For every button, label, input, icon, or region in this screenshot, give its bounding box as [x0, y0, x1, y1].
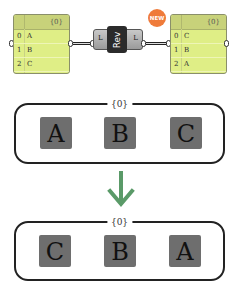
- after-item: C: [39, 235, 71, 267]
- arrow-down-icon: [107, 171, 135, 209]
- list-item: 0A: [14, 30, 69, 44]
- rev-output-label: L: [133, 34, 138, 42]
- list-item: 1B: [14, 44, 69, 58]
- item-value: C: [184, 30, 189, 43]
- rev-name-box[interactable]: Rev: [107, 26, 127, 53]
- list-item: 2A: [171, 58, 226, 72]
- new-badge: NEW: [148, 9, 166, 27]
- list-item: 2C: [14, 58, 69, 72]
- before-item: C: [170, 117, 202, 149]
- item-value: A: [184, 58, 189, 71]
- item-value: B: [184, 44, 189, 57]
- item-value: A: [27, 30, 32, 43]
- after-path: {0}: [107, 216, 132, 228]
- after-item: A: [169, 235, 201, 267]
- item-index: 0: [17, 30, 21, 43]
- item-index: 0: [174, 30, 178, 43]
- item-value: B: [27, 44, 32, 57]
- item-index: 2: [174, 58, 178, 71]
- wire-out: [146, 42, 168, 45]
- item-index: 2: [17, 58, 21, 71]
- after-item: B: [104, 235, 136, 267]
- list-item: 1B: [171, 44, 226, 58]
- input-panel[interactable]: {0} 0A 1B 2C: [13, 14, 70, 74]
- before-item: A: [40, 117, 72, 149]
- output-panel[interactable]: {0} 0C 1B 2A: [170, 14, 227, 74]
- item-index: 1: [17, 44, 21, 57]
- item-value: C: [27, 58, 32, 71]
- before-item: B: [104, 117, 136, 149]
- list-item: 0C: [171, 30, 226, 44]
- item-index: 1: [174, 44, 178, 57]
- rev-name: Rev: [112, 31, 122, 48]
- output-panel-out-port[interactable]: [224, 40, 229, 47]
- rev-input-label: L: [98, 34, 103, 42]
- output-panel-path: {0}: [171, 15, 226, 30]
- before-path: {0}: [107, 98, 132, 110]
- input-panel-path: {0}: [14, 15, 69, 30]
